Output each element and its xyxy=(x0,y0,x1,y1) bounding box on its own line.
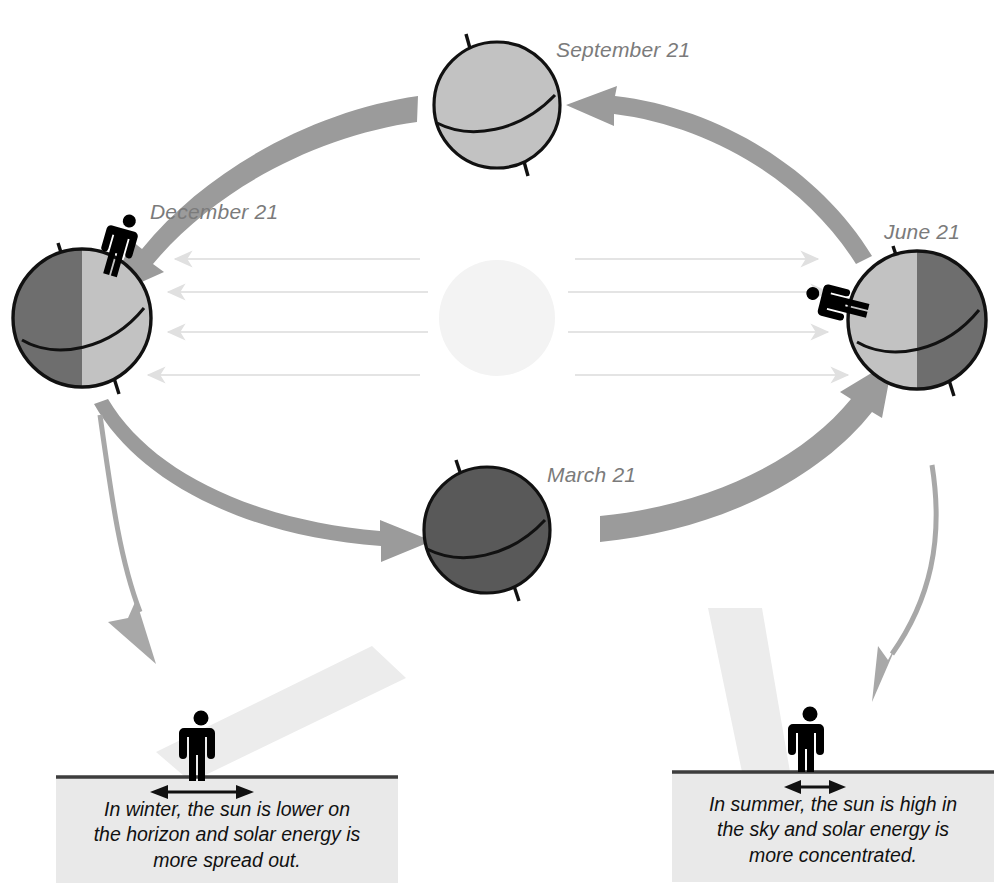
seasons-diagram: September 21 December 21 March 21 June 2… xyxy=(0,0,994,893)
sun xyxy=(439,260,555,376)
globe-september xyxy=(434,34,560,176)
orbit-arrow-march-to-june xyxy=(600,360,893,542)
summer-person-figure xyxy=(788,707,824,773)
orbit-arrow-june-to-september xyxy=(566,86,872,264)
globe-label-december: December 21 xyxy=(150,200,278,224)
orbit-arrow-september-to-december xyxy=(106,96,418,298)
summer-caption: In summer, the sun is high in the sky an… xyxy=(672,792,994,868)
globe-june xyxy=(848,246,986,396)
globe-label-september: September 21 xyxy=(556,38,690,62)
pointer-arrow-to-summer-panel xyxy=(872,465,936,702)
sun-rays-left xyxy=(148,259,428,375)
globe-label-june: June 21 xyxy=(884,220,960,244)
orbit-arrow-december-to-march xyxy=(94,399,432,562)
globe-march xyxy=(424,460,550,601)
sun-rays-right xyxy=(568,259,848,375)
winter-caption: In winter, the sun is lower on the horiz… xyxy=(56,797,398,873)
globe-label-march: March 21 xyxy=(547,463,636,487)
diagram-canvas xyxy=(0,0,994,893)
